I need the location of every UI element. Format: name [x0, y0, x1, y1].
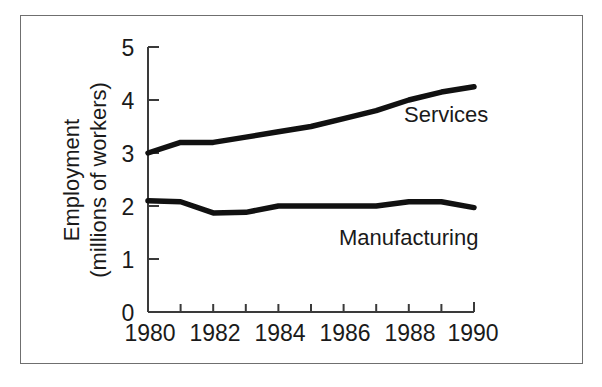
y-axis-title-line-2: (millions of workers) [86, 82, 111, 278]
series-label-manufacturing: Manufacturing [339, 225, 478, 250]
y-axis-tick-labels: 5 4 3 2 1 0 [122, 35, 135, 326]
line-chart: Employment (millions of workers) 5 4 3 2… [0, 0, 602, 387]
series-line-manufacturing [148, 201, 474, 213]
y-tick-label-3: 3 [122, 141, 135, 167]
y-tick-label-1: 1 [122, 247, 135, 273]
y-tick-label-2: 2 [122, 194, 135, 220]
y-axis-title: Employment (millions of workers) [59, 82, 111, 278]
x-tick-label-1988: 1988 [384, 320, 435, 346]
x-tick-label-1982: 1982 [189, 320, 240, 346]
x-tick-label-1980: 1980 [124, 320, 175, 346]
x-axis-ticks [148, 302, 474, 312]
y-axis-ticks [148, 47, 159, 312]
x-axis-tick-labels: 1980 1982 1984 1986 1988 1990 [124, 320, 498, 346]
y-axis-title-line-1: Employment [59, 119, 84, 241]
series-label-services: Services [404, 102, 488, 127]
x-tick-label-1984: 1984 [254, 320, 305, 346]
x-tick-label-1990: 1990 [447, 320, 498, 346]
x-tick-label-1986: 1986 [319, 320, 370, 346]
y-tick-label-4: 4 [122, 88, 135, 114]
chart-figure: Employment (millions of workers) 5 4 3 2… [0, 0, 602, 387]
y-tick-label-5: 5 [122, 35, 135, 61]
